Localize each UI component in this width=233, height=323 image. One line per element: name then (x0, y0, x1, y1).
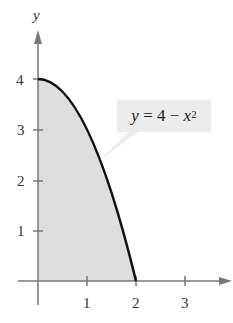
eq-var: x (184, 106, 192, 126)
equation-label: y = 4 − x 2 (117, 100, 211, 132)
eq-mid: = 4 − (139, 106, 184, 126)
y-tick-2: 2 (17, 173, 25, 189)
y-tick-3: 3 (17, 122, 25, 138)
y-tick-4: 4 (16, 72, 24, 88)
x-tick-1: 1 (83, 295, 91, 311)
x-tick-2: 2 (132, 295, 140, 311)
y-axis-label: y (31, 7, 40, 23)
y-tick-1: 1 (17, 223, 25, 239)
label-pointer (100, 132, 138, 160)
x-tick-3: 3 (181, 295, 189, 311)
x-axis-arrow-icon (219, 277, 232, 285)
chart: 1 2 3 1 2 3 4 y (0, 0, 233, 323)
eq-exp: 2 (191, 108, 197, 120)
eq-lhs: y (131, 106, 139, 126)
y-axis-arrow-icon (34, 30, 42, 44)
